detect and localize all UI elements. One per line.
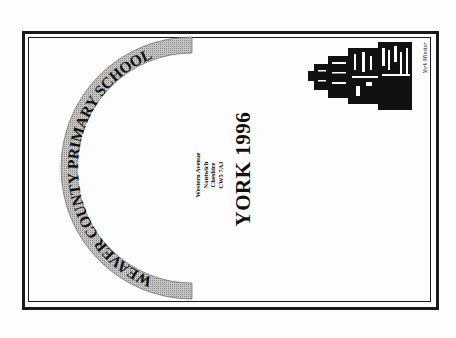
address-line: Nantwich xyxy=(202,153,210,198)
svg-text:WEAVER COUNTY PRIMARY SCHOOL: WEAVER COUNTY PRIMARY SCHOOL xyxy=(64,45,155,291)
york-minster-illustration-icon xyxy=(308,38,418,114)
document-title: YORK 1996 xyxy=(231,112,256,227)
address-line: Cheshire xyxy=(209,153,217,198)
document-page: WEAVER COUNTY PRIMARY SCHOOL Western Ave… xyxy=(0,0,456,338)
address-line: Western Avenue xyxy=(194,153,202,198)
address-block: Western Avenue Nantwich Cheshire CW5 7AJ xyxy=(194,153,224,198)
school-name-text: WEAVER COUNTY PRIMARY SCHOOL xyxy=(64,45,155,291)
address-line: CW5 7AJ xyxy=(217,153,225,198)
illustration-caption: York Minster xyxy=(422,43,428,74)
